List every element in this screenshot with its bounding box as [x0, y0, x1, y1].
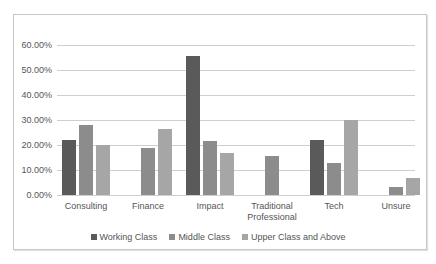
legend: Working ClassMiddle ClassUpper Class and…: [0, 232, 436, 242]
x-tick-label: Tech: [301, 201, 367, 212]
legend-label: Working Class: [100, 232, 158, 242]
bar: [186, 56, 200, 195]
legend-item: Upper Class and Above: [242, 232, 346, 242]
bar: [344, 120, 358, 195]
plot-area: [57, 45, 415, 195]
bar: [406, 178, 420, 195]
gridline: [57, 145, 415, 146]
gridline: [57, 95, 415, 96]
bar: [265, 156, 279, 195]
bar: [158, 129, 172, 195]
gridline: [57, 70, 415, 71]
bar: [327, 163, 341, 195]
x-tick-label: Finance: [115, 201, 181, 212]
y-tick-label: 10.00%: [2, 165, 52, 175]
legend-swatch-icon: [169, 234, 175, 240]
bar: [220, 153, 234, 195]
y-tick-label: 0.00%: [2, 190, 52, 200]
bar: [62, 140, 76, 196]
bar: [96, 145, 110, 195]
gridline: [57, 120, 415, 121]
gridline: [57, 195, 415, 196]
bar: [310, 140, 324, 196]
gridline: [57, 170, 415, 171]
x-tick-label: Consulting: [53, 201, 119, 212]
bar: [389, 187, 403, 195]
legend-label: Middle Class: [178, 232, 230, 242]
legend-label: Upper Class and Above: [251, 232, 346, 242]
gridline: [57, 45, 415, 46]
x-tick-label: Impact: [177, 201, 243, 212]
legend-swatch-icon: [242, 234, 248, 240]
y-tick-label: 40.00%: [2, 90, 52, 100]
x-tick-label: Unsure: [363, 201, 429, 212]
y-tick-label: 50.00%: [2, 65, 52, 75]
bar: [203, 141, 217, 195]
legend-swatch-icon: [91, 234, 97, 240]
y-tick-label: 60.00%: [2, 40, 52, 50]
legend-item: Working Class: [91, 232, 158, 242]
bar: [79, 125, 93, 195]
legend-item: Middle Class: [169, 232, 230, 242]
bar: [141, 148, 155, 195]
x-tick-label: TraditionalProfessional: [239, 201, 305, 223]
y-tick-label: 30.00%: [2, 115, 52, 125]
y-tick-label: 20.00%: [2, 140, 52, 150]
